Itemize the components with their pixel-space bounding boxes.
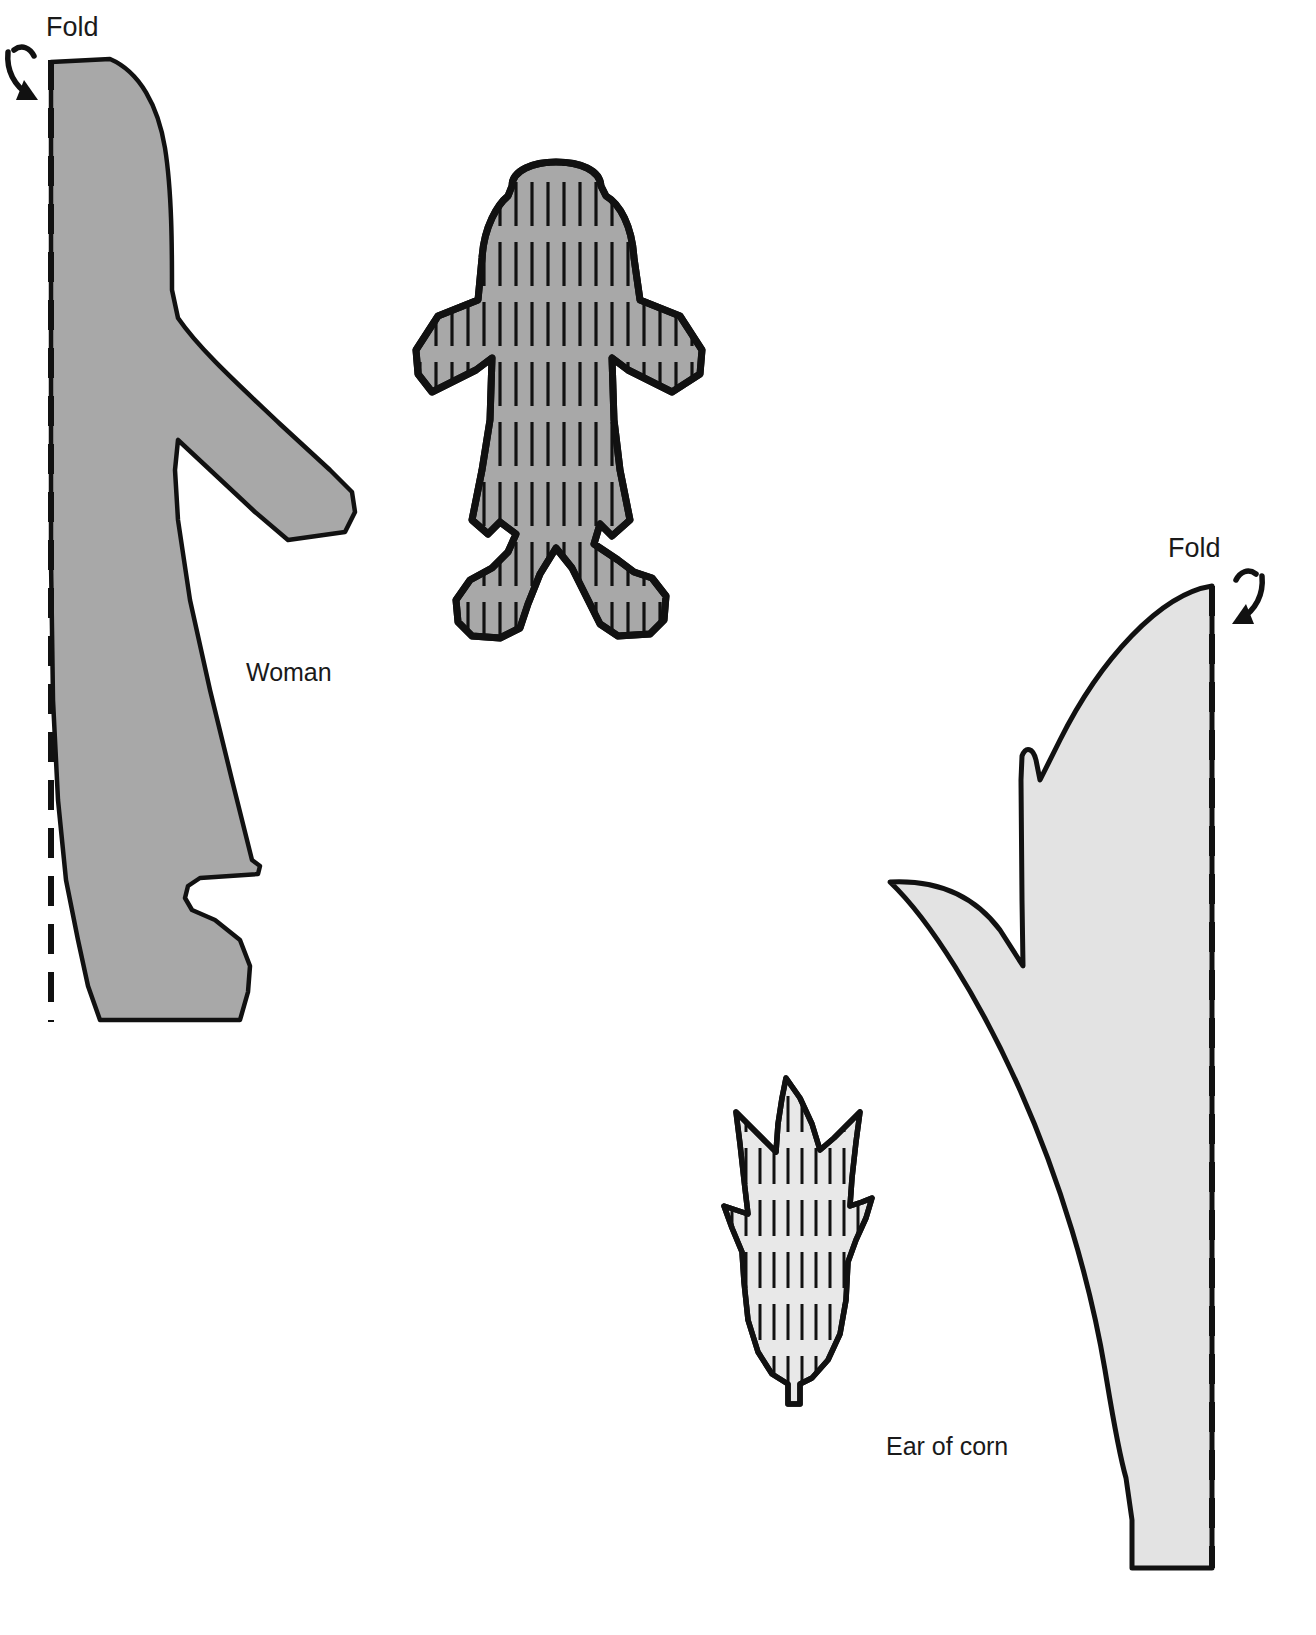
pattern-sheet: Fold Fold Woman Ear of corn (0, 0, 1316, 1635)
fold-label-right: Fold (1168, 535, 1221, 562)
ear-of-corn-texture (700, 1070, 900, 1420)
corn-husk-doll (400, 150, 720, 660)
woman-pattern-shape (51, 59, 355, 1020)
woman-label: Woman (246, 660, 332, 685)
corn-husk-doll-texture (400, 150, 720, 660)
woman-pattern (8, 47, 355, 1022)
fold-arrow-left-icon (8, 47, 38, 100)
pattern-drawing-canvas (0, 0, 1316, 1635)
fold-arrow-right-icon (1232, 571, 1262, 624)
corn-leaf-pattern-shape (890, 586, 1212, 1568)
ear-of-corn-label: Ear of corn (886, 1434, 1008, 1459)
corn-leaf-pattern (890, 571, 1262, 1568)
ear-of-corn (700, 1070, 900, 1420)
fold-label-left: Fold (46, 14, 99, 41)
